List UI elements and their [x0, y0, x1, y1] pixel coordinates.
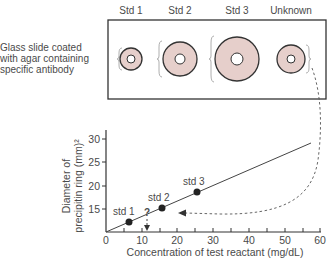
- well-label-std3: Std 3: [225, 5, 249, 16]
- caption-line-3: specific antibody: [0, 64, 74, 75]
- caption-line-1: Glass slide coated: [0, 42, 82, 53]
- arrow-left-icon: [178, 210, 186, 217]
- svg-text:precipitin ring (mm)²: precipitin ring (mm)²: [72, 139, 84, 233]
- point-label-std1: std 1: [113, 206, 135, 217]
- well-label-unknown: Unknown: [270, 5, 312, 16]
- y-axis-label: Diameter of precipitin ring (mm)²: [60, 139, 84, 233]
- standard-curve-line: [106, 143, 311, 232]
- x-tick-label: 20: [171, 234, 183, 246]
- well-label-std2: Std 2: [168, 5, 192, 16]
- x-tick-label: 50: [279, 234, 291, 246]
- data-point-std1: [126, 219, 133, 226]
- well-label-std1: Std 1: [119, 5, 143, 16]
- data-point-std2: [159, 205, 166, 212]
- point-label-std2: std 2: [148, 192, 170, 203]
- unknown-marker: ?: [144, 207, 150, 218]
- y-tick-label: 20: [88, 180, 100, 192]
- y-tick-label: 25: [88, 156, 100, 168]
- x-tick-label: 0: [103, 234, 109, 246]
- y-tick-label: 30: [88, 133, 100, 145]
- slide-caption: Glass slide coated with agar containing …: [0, 42, 89, 75]
- x-tick-label: 40: [243, 234, 255, 246]
- svg-text:Diameter of: Diameter of: [60, 159, 72, 213]
- caption-line-2: with agar containing: [0, 53, 89, 64]
- data-point-std3: [194, 189, 201, 196]
- x-tick-label: 30: [207, 234, 219, 246]
- x-tick-label: 60: [314, 234, 326, 246]
- y-tick-label: 15: [88, 203, 100, 215]
- x-axis-label: Concentration of test reactant (mg/dL): [127, 246, 304, 258]
- point-label-std3: std 3: [183, 176, 205, 187]
- arrow-down-icon: [144, 225, 150, 231]
- chart: 15 20 25 30 0 10 20 30 40 50 60 Concentr…: [60, 130, 326, 258]
- immunodiffusion-diagram: Glass slide coated with agar containing …: [0, 0, 332, 264]
- x-tick-label: 10: [136, 234, 148, 246]
